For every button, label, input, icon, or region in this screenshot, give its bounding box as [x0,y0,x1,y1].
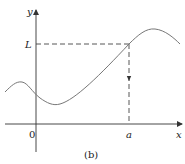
L-label: L [24,39,32,50]
a-label: a [126,129,132,140]
origin-label: 0 [29,129,35,140]
down-arrow-icon [127,76,131,81]
y-axis-label: y [26,6,33,17]
function-limit-diagram: y L 0 a x (b) [0,0,185,164]
figure-caption: (b) [84,149,98,160]
x-axis-label: x [176,129,182,140]
